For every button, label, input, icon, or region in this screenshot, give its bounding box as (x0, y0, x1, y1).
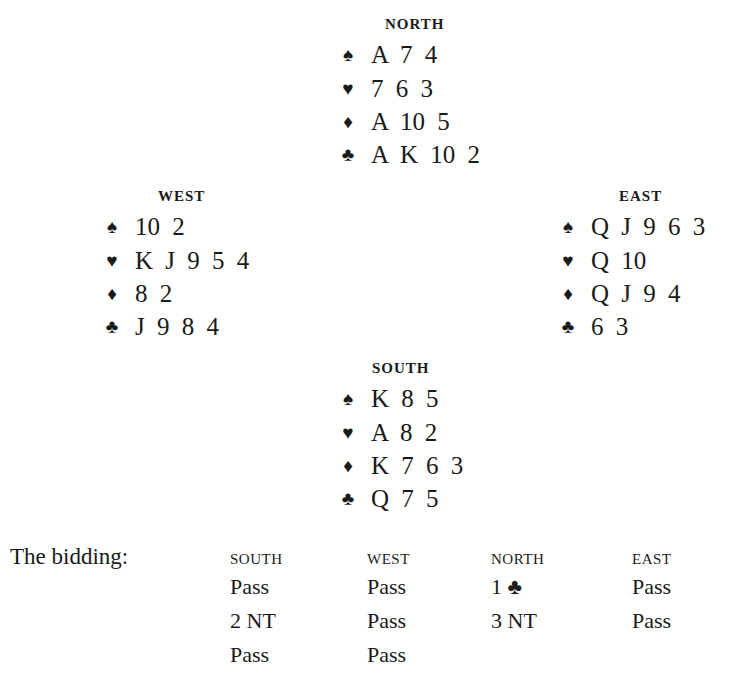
cards-hearts: A 8 2 (371, 416, 437, 449)
cards-clubs: A K 10 2 (371, 138, 480, 171)
hand-south: SOUTH ♠K 8 5 ♥A 8 2 ♦K 7 6 3 ♣Q 7 5 (337, 358, 537, 528)
spade-icon: ♠ (337, 38, 359, 71)
cards-clubs: 6 3 (591, 310, 628, 343)
cards-hearts: Q 10 (591, 244, 646, 277)
bid-cell: 1 ♣ (491, 570, 544, 604)
suit-row-spades: ♠A 7 4 (337, 38, 437, 71)
cards-clubs: J 9 8 4 (135, 310, 219, 343)
suit-row-spades: ♠K 8 5 (337, 382, 439, 415)
cards-hearts: 7 6 3 (371, 72, 433, 105)
bid-cell: Pass (632, 570, 672, 604)
suit-row-hearts: ♥7 6 3 (337, 72, 433, 105)
club-icon: ♣ (101, 310, 123, 343)
bid-cell: Pass (367, 604, 410, 638)
spade-icon: ♠ (557, 210, 579, 243)
club-icon: ♣ (337, 482, 359, 515)
suit-row-hearts: ♥A 8 2 (337, 416, 437, 449)
bid-header: SOUTH (230, 548, 283, 570)
diamond-icon: ♦ (337, 105, 359, 138)
cards-diamonds: A 10 5 (371, 105, 450, 138)
bid-cell: Pass (230, 570, 283, 604)
suit-row-clubs: ♣A K 10 2 (337, 138, 480, 171)
bid-cell: Pass (367, 638, 410, 672)
hand-title-north: NORTH (385, 14, 444, 34)
suit-row-diamonds: ♦K 7 6 3 (337, 449, 463, 482)
club-icon: ♣ (557, 310, 579, 343)
diamond-icon: ♦ (337, 449, 359, 482)
cards-diamonds: 8 2 (135, 277, 172, 310)
hand-north: NORTH ♠A 7 4 ♥7 6 3 ♦A 10 5 ♣A K 10 2 (337, 14, 537, 184)
bid-column-north: NORTH 1 ♣ 3 NT (491, 548, 544, 638)
suit-row-diamonds: ♦A 10 5 (337, 105, 450, 138)
bid-header: EAST (632, 548, 672, 570)
bid-header: NORTH (491, 548, 544, 570)
bid-column-west: WEST Pass Pass Pass (367, 548, 410, 672)
suit-row-clubs: ♣6 3 (557, 310, 628, 343)
bidding-table: The bidding: SOUTH Pass 2 NT Pass WEST P… (0, 540, 744, 690)
cards-spades: A 7 4 (371, 38, 437, 71)
club-icon: ♣ (337, 138, 359, 171)
diamond-icon: ♦ (557, 277, 579, 310)
heart-icon: ♥ (557, 244, 579, 277)
bid-header: WEST (367, 548, 410, 570)
diamond-icon: ♦ (101, 277, 123, 310)
bid-column-south: SOUTH Pass 2 NT Pass (230, 548, 283, 672)
bid-column-east: EAST Pass Pass (632, 548, 672, 638)
suit-row-spades: ♠Q J 9 6 3 (557, 210, 705, 243)
hand-east: EAST ♠Q J 9 6 3 ♥Q 10 ♦Q J 9 4 ♣6 3 (557, 186, 744, 346)
bid-cell: Pass (367, 570, 410, 604)
bid-cell: Pass (230, 638, 283, 672)
spade-icon: ♠ (337, 382, 359, 415)
cards-diamonds: Q J 9 4 (591, 277, 681, 310)
hand-title-east: EAST (619, 186, 662, 206)
bid-cell: Pass (632, 604, 672, 638)
heart-icon: ♥ (101, 244, 123, 277)
cards-diamonds: K 7 6 3 (371, 449, 463, 482)
suit-row-diamonds: ♦Q J 9 4 (557, 277, 681, 310)
suit-row-hearts: ♥K J 9 5 4 (101, 244, 249, 277)
heart-icon: ♥ (337, 416, 359, 449)
cards-spades: Q J 9 6 3 (591, 210, 705, 243)
suit-row-clubs: ♣Q 7 5 (337, 482, 439, 515)
cards-spades: 10 2 (135, 210, 185, 243)
heart-icon: ♥ (337, 72, 359, 105)
bidding-label: The bidding: (10, 544, 128, 570)
cards-hearts: K J 9 5 4 (135, 244, 249, 277)
suit-row-hearts: ♥Q 10 (557, 244, 646, 277)
hand-west: WEST ♠10 2 ♥K J 9 5 4 ♦8 2 ♣J 9 8 4 (101, 186, 321, 346)
spade-icon: ♠ (101, 210, 123, 243)
suit-row-spades: ♠10 2 (101, 210, 185, 243)
hand-title-west: WEST (158, 186, 205, 206)
bid-cell: 3 NT (491, 604, 544, 638)
cards-spades: K 8 5 (371, 382, 439, 415)
suit-row-clubs: ♣J 9 8 4 (101, 310, 219, 343)
cards-clubs: Q 7 5 (371, 482, 439, 515)
suit-row-diamonds: ♦8 2 (101, 277, 172, 310)
hand-title-south: SOUTH (372, 358, 430, 378)
bid-cell: 2 NT (230, 604, 283, 638)
